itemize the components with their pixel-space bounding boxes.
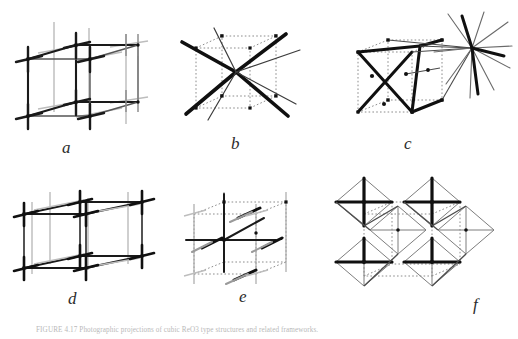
panel-b-label: b: [231, 135, 240, 152]
panel-e-light-crossbars: [184, 210, 268, 276]
panel-f-drawing: [330, 172, 502, 306]
panel-c-drawing: [344, 12, 512, 138]
panel-a-drawing: [14, 14, 154, 139]
panel-e-label: e: [239, 288, 247, 305]
panel-c: [344, 12, 512, 138]
panel-a-label: a: [62, 139, 71, 156]
panel-e: [180, 188, 316, 298]
panel-d-label: d: [68, 290, 77, 307]
figure-caption: FIGURE 4.17 Photographic projections of …: [36, 326, 506, 335]
panel-e-light-verticals: [194, 192, 286, 284]
panel-e-solid-axes: [186, 194, 276, 272]
panel-a-mid-edges: [28, 45, 138, 116]
panel-f-octahedra-outlines: [336, 178, 494, 286]
panel-f: [330, 172, 502, 306]
panel-b-drawing: [178, 20, 306, 138]
panel-d: [14, 188, 160, 294]
panel-d-drawing: [14, 188, 160, 294]
panel-b: [178, 20, 306, 138]
panel-b-thick-rods: [182, 34, 288, 116]
panel-a-cube-edges: [28, 45, 138, 116]
figure-canvas: a: [0, 0, 518, 339]
panel-a: [14, 14, 154, 139]
panel-d-inter-layer-pillars: [24, 202, 142, 268]
panel-c-label: c: [404, 135, 412, 152]
panel-f-label: f: [473, 296, 478, 313]
panel-d-vertex-crossbars: [14, 191, 154, 280]
panel-e-drawing: [180, 188, 316, 298]
panel-e-dotted-cell: [194, 202, 286, 274]
